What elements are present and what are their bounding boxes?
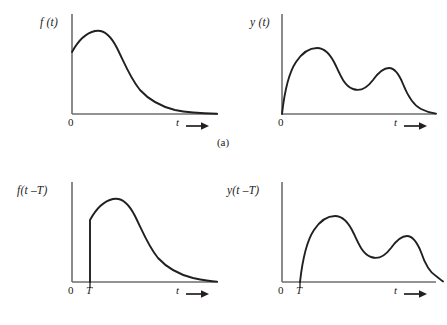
right-arrow-icon xyxy=(186,122,209,130)
t-axis-label: t xyxy=(176,284,179,296)
plot-svg-y-of-t-minus-T xyxy=(224,162,447,302)
tick-label-origin: 0 xyxy=(278,284,284,296)
tick-label-origin: 0 xyxy=(68,116,74,128)
figure-row-b: f(t –T) 0 T t y(t –T) 0 T t (b) xyxy=(0,162,447,325)
plot-panel-y-of-t: y (t) 0 t xyxy=(224,0,447,140)
axis-label-y-of-t: y (t) xyxy=(250,16,270,28)
right-arrow-icon xyxy=(404,290,427,298)
right-arrow-icon xyxy=(404,122,427,130)
plot-panel-f-of-t: f (t) 0 t xyxy=(0,0,223,140)
figure-time-shift-property: f (t) 0 t y (t) 0 t (a) xyxy=(0,0,447,325)
tick-label-shift-T: T xyxy=(296,284,302,296)
t-axis-label: t xyxy=(394,284,397,296)
right-arrow-icon xyxy=(186,290,209,298)
caption-a: (a) xyxy=(205,136,241,148)
t-axis-label: t xyxy=(176,116,179,128)
axis-label-f-of-t: f (t) xyxy=(40,16,58,28)
tick-label-origin: 0 xyxy=(68,284,74,296)
figure-row-a: f (t) 0 t y (t) 0 t (a) xyxy=(0,0,447,163)
curve-f-of-t-minus-T xyxy=(90,199,217,282)
plot-svg-f-of-t xyxy=(0,0,223,140)
axis-label-f-of-t-minus-T: f(t –T) xyxy=(17,184,47,196)
axis-label-y-of-t-minus-T: y(t –T) xyxy=(227,184,259,196)
curve-y-of-t-minus-T xyxy=(300,216,443,282)
t-axis-label: t xyxy=(394,116,397,128)
tick-label-origin: 0 xyxy=(278,116,284,128)
plot-panel-f-of-t-minus-T: f(t –T) 0 T t xyxy=(0,162,223,302)
curve-y-of-t xyxy=(282,48,436,114)
tick-label-shift-T: T xyxy=(86,284,92,296)
curve-f-of-t xyxy=(72,31,217,114)
plot-panel-y-of-t-minus-T: y(t –T) 0 T t xyxy=(224,162,447,302)
plot-svg-f-of-t-minus-T xyxy=(0,162,223,302)
